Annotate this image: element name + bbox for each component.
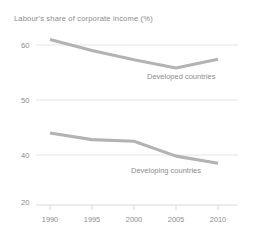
chart-figure: Labour's share of corporate income (%) 6… <box>0 0 255 246</box>
series-annotation-developed-countries: Developed countries <box>147 72 215 81</box>
series-annotation-developing-countries: Developing countries <box>131 166 201 175</box>
x-tick-label-2000: 2000 <box>126 215 142 224</box>
chart-svg <box>0 0 255 246</box>
x-tickmarks <box>50 205 218 210</box>
x-tick-label-1995: 1995 <box>84 215 100 224</box>
series-line-developed-countries <box>50 40 218 69</box>
y-tick-label-40: 40 <box>21 151 29 160</box>
x-tick-label-2010: 2010 <box>210 215 226 224</box>
y-tick-label-50: 50 <box>21 96 29 105</box>
y-tick-label-20: 20 <box>21 198 29 207</box>
y-tick-label-60: 60 <box>21 41 29 50</box>
x-tick-label-2005: 2005 <box>168 215 184 224</box>
x-tick-label-1990: 1990 <box>42 215 58 224</box>
series-line-developing-countries <box>50 133 218 163</box>
gridlines <box>36 45 238 205</box>
plot-area: 60 50 40 20 1990 1995 2000 2005 2010 Dev… <box>0 0 255 246</box>
